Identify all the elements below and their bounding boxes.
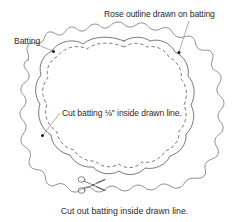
cut-dashed-line <box>43 43 187 168</box>
label-cut-suffix: " inside drawn line. <box>112 108 182 118</box>
caption-cut-out-batting: Cut out batting inside drawn line. <box>0 206 249 216</box>
rose-drawn-outline <box>36 37 195 174</box>
label-cut-fraction: ⅛ <box>105 108 112 118</box>
scissors-icon <box>78 177 105 194</box>
label-batting: Batting <box>14 36 40 46</box>
label-cut-batting-inside: Cut batting ⅛" inside drawn line. <box>62 108 182 118</box>
figure-canvas: Rose outline drawn on batting Batting Cu… <box>0 0 249 222</box>
leader-dot-marker <box>52 50 55 53</box>
label-cut-prefix: Cut batting <box>62 108 105 118</box>
leader-batting <box>38 45 55 53</box>
leader-dot-marker <box>41 134 44 137</box>
leader-dot-marker <box>178 51 181 54</box>
label-rose-outline: Rose outline drawn on batting <box>104 9 215 19</box>
